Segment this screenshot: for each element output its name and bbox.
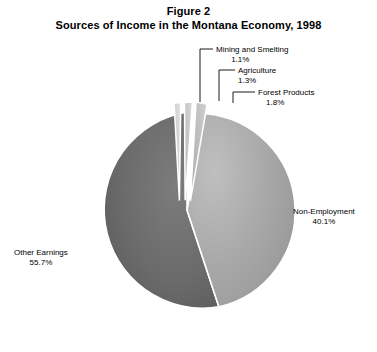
label-other-earnings: Other Earnings 55.7% <box>14 248 68 267</box>
label-non-employment-percent: 40.1% <box>293 217 355 227</box>
label-agriculture-percent: 1.3% <box>238 76 278 86</box>
label-agriculture-name: Agriculture <box>238 66 278 76</box>
label-mining-and-smelting: Mining and Smelting 1.1% <box>216 45 288 64</box>
label-other-earnings-percent: 55.7% <box>14 258 68 268</box>
label-mining-and-smelting-percent: 1.1% <box>216 55 288 65</box>
figure-container: Figure 2 Sources of Income in the Montan… <box>0 0 377 352</box>
label-other-earnings-name: Other Earnings <box>14 248 68 258</box>
label-mining-and-smelting-name: Mining and Smelting <box>216 45 288 55</box>
label-non-employment: Non-Employment 40.1% <box>293 207 355 226</box>
label-forest-products-percent: 1.8% <box>258 98 314 108</box>
pie-chart <box>0 0 377 352</box>
leader-line-mining <box>200 49 213 102</box>
label-forest-products-name: Forest Products <box>258 88 314 98</box>
label-agriculture: Agriculture 1.3% <box>238 66 278 85</box>
label-forest-products: Forest Products 1.8% <box>258 88 314 107</box>
label-non-employment-name: Non-Employment <box>293 207 355 217</box>
leader-line-forest <box>233 92 255 103</box>
